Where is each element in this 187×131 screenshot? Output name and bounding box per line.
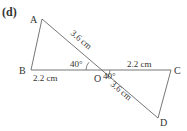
length-od: 3.6 cm [109, 79, 134, 103]
point-label-a: A [30, 14, 38, 25]
length-bo: 2.2 cm [33, 73, 58, 83]
figure-label: (d) [2, 5, 17, 19]
angle-label-aob: 40° [70, 59, 83, 69]
angle-arc-aob [86, 62, 89, 70]
point-label-d: D [160, 117, 167, 128]
segment-cd [158, 70, 171, 118]
length-oc: 2.2 cm [127, 59, 152, 69]
point-label-c: C [174, 65, 181, 76]
segment-ab [31, 19, 42, 70]
geometry-diagram: (d) A B O C D 3.6 cm 2.2 cm 2.2 cm 3.6 c… [0, 0, 187, 131]
point-label-o: O [94, 73, 101, 84]
angle-label-cod: 40° [103, 71, 116, 81]
point-label-b: B [19, 65, 26, 76]
length-ao: 3.6 cm [69, 28, 94, 52]
